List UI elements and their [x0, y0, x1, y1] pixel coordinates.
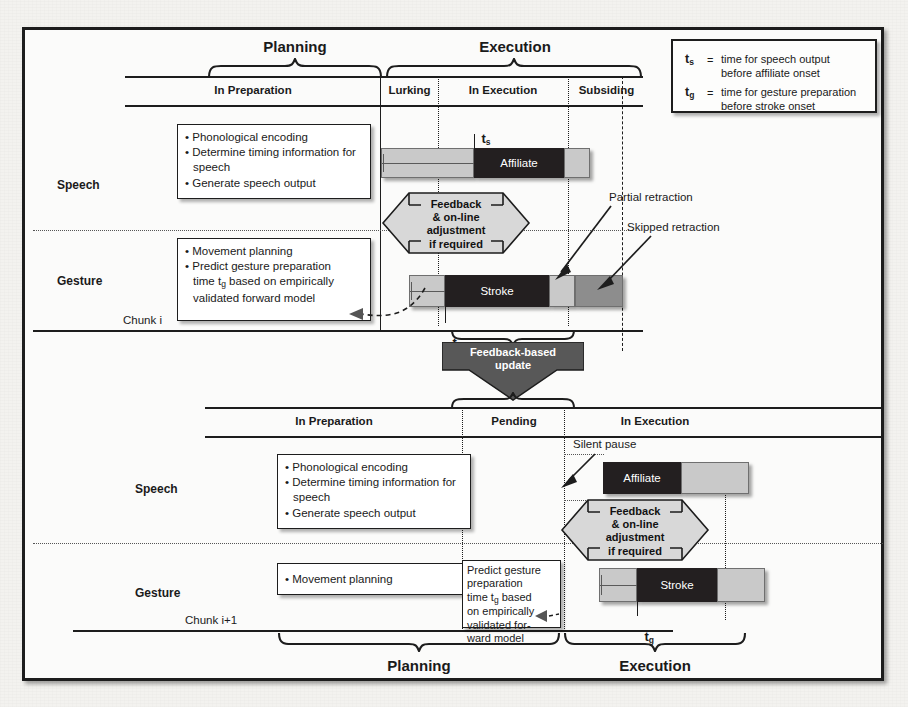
top-speech-gesture-divider — [33, 230, 633, 231]
bullet: • Determine timing information for speec… — [285, 475, 462, 505]
top-row-label-gesture: Gesture — [57, 274, 102, 288]
feedback-based-update-text: Feedback-based update — [442, 346, 584, 372]
top-speech-bar-detail-line — [382, 163, 474, 164]
marker-ts-top-stem — [474, 134, 475, 150]
bullet: • Generate speech output — [285, 506, 462, 521]
bottom-header-rule-upper — [205, 407, 883, 409]
legend-box: ts = time for speech output before affil… — [671, 39, 877, 113]
top-gesture-process-box: • Movement planning • Predict gesture pr… — [177, 238, 371, 321]
forward-model-connector — [347, 282, 427, 326]
bottom-gesture-process-box: • Movement planning — [277, 563, 471, 595]
bullet: • Predict gesture preparation time tg ba… — [185, 259, 362, 306]
predict-line: on empirically — [467, 605, 534, 617]
figure-frame: ts = time for speech output before affil… — [22, 27, 884, 681]
bottom-row-label-speech: Speech — [135, 482, 178, 496]
bottom-feedback-hexagon: Feedback & on-line adjustment if require… — [562, 498, 708, 562]
hex-line: adjustment — [427, 224, 486, 236]
top-header-rule-upper — [125, 76, 643, 78]
bottom-row-label-gesture: Gesture — [135, 586, 180, 600]
top-execution-title: Execution — [425, 38, 605, 56]
hex-line: Feedback — [431, 198, 482, 210]
top-speech-bar-detail-tick — [383, 154, 384, 172]
bullet: • Phonological encoding — [185, 130, 362, 145]
legend-equals-tg: = — [707, 87, 713, 99]
legend-symbol-ts: ts — [685, 52, 694, 67]
affiliate-label: Affiliate — [603, 472, 681, 484]
bottom-gesture-bar-stroke: Stroke — [637, 568, 717, 602]
bottom-gesture-bar-detail-line — [600, 585, 637, 586]
skipped-retraction-arrow — [591, 232, 655, 292]
bottom-col-in-execution: In Execution — [565, 415, 745, 429]
bullet: • Determine timing information for speec… — [185, 145, 362, 175]
bottom-execution-title: Execution — [575, 657, 735, 675]
top-gesture-bar-stroke: Stroke — [445, 275, 549, 307]
chunk-i-label: Chunk i — [123, 314, 162, 328]
legend-ts-line2: before affiliate onset — [721, 67, 820, 81]
bullet: • Generate speech output — [185, 176, 362, 191]
bottom-speech-bar-tail — [681, 462, 749, 494]
top-feedback-hexagon: Feedback & on-line adjustment if require… — [383, 191, 529, 255]
bottom-feedback-hexagon-text: Feedback & on-line adjustment if require… — [562, 505, 708, 558]
brace-top-execution — [385, 58, 643, 78]
top-planning-title: Planning — [215, 38, 375, 56]
legend-tg-line2: before stroke onset — [721, 100, 815, 114]
top-feedback-hexagon-text: Feedback & on-line adjustment if require… — [383, 198, 529, 251]
bullet: • Phonological encoding — [285, 460, 462, 475]
bullet: • Movement planning — [185, 244, 362, 259]
top-speech-bar-tail — [564, 148, 590, 178]
bottom-speech-bar-affiliate: Affiliate — [603, 462, 681, 494]
bottom-col-pending: Pending — [463, 415, 565, 429]
top-subsiding-right-dash — [622, 76, 623, 351]
legend-symbol-tg: tg — [685, 85, 694, 100]
legend-ts-line1: time for speech output — [721, 53, 830, 67]
marker-ts-top: ts — [467, 116, 491, 163]
silent-pause-region-top — [564, 454, 604, 455]
top-col-lurking: Lurking — [381, 84, 438, 98]
bottom-speech-process-box: • Phonological encoding • Determine timi… — [277, 454, 471, 529]
brace-top-planning — [207, 58, 383, 78]
hex-line: adjustment — [606, 531, 665, 543]
update-line1: Feedback-based — [470, 346, 556, 358]
bottom-header-rule-lower — [205, 436, 883, 438]
hex-line: & on-line — [432, 211, 479, 223]
top-speech-process-box: • Phonological encoding • Determine timi… — [177, 124, 371, 199]
predict-box-arrow — [533, 608, 563, 624]
stroke-label: Stroke — [445, 285, 549, 297]
top-col-in-preparation: In Preparation — [125, 84, 381, 98]
bottom-speech-gesture-divider — [33, 543, 883, 544]
predict-line: preparation — [467, 577, 523, 589]
predict-line: Predict gesture — [467, 564, 541, 576]
predict-line: time tg based — [467, 591, 532, 603]
hex-line: Feedback — [610, 505, 661, 517]
bottom-gesture-bar-detail-tick — [601, 575, 602, 595]
top-header-rule-lower — [125, 105, 643, 107]
brace-bottom-execution — [563, 632, 747, 652]
legend-tg-line1: time for gesture preparation — [721, 86, 856, 100]
stroke-label: Stroke — [637, 579, 717, 591]
hex-line: & on-line — [611, 518, 658, 530]
top-col-subsiding: Subsiding — [570, 84, 643, 98]
bottom-gesture-bar-tail — [717, 568, 765, 602]
chunk-i-plus-1-label: Chunk i+1 — [185, 614, 237, 628]
predict-line: validated for- — [467, 619, 531, 631]
legend-equals-ts: = — [707, 54, 713, 66]
top-col-in-execution: In Execution — [438, 84, 568, 98]
top-row-label-speech: Speech — [57, 178, 100, 192]
bottom-planning-title: Planning — [339, 657, 499, 675]
silent-pause-arrow — [555, 450, 599, 490]
brace-bottom-planning — [277, 632, 561, 652]
hex-line: if required — [608, 545, 662, 557]
bullet: • Movement planning — [285, 572, 462, 587]
partial-retraction-label: Partial retraction — [609, 191, 693, 205]
bottom-col-in-preparation: In Preparation — [205, 415, 463, 429]
update-line2: update — [495, 359, 531, 371]
hex-line: if required — [429, 238, 483, 250]
